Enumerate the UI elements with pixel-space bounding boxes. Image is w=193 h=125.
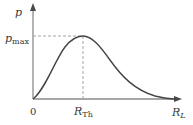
power-curve [33, 36, 176, 99]
y-axis-arrow-icon [30, 3, 36, 11]
rth-label: RTh [73, 105, 93, 119]
pmax-label: pmax [5, 32, 29, 46]
y-axis-label: p [15, 6, 22, 19]
power-transfer-chart: p pmax 0 RTh RL [0, 0, 193, 125]
origin-label: 0 [30, 106, 36, 117]
x-axis-label: RL [171, 106, 186, 120]
